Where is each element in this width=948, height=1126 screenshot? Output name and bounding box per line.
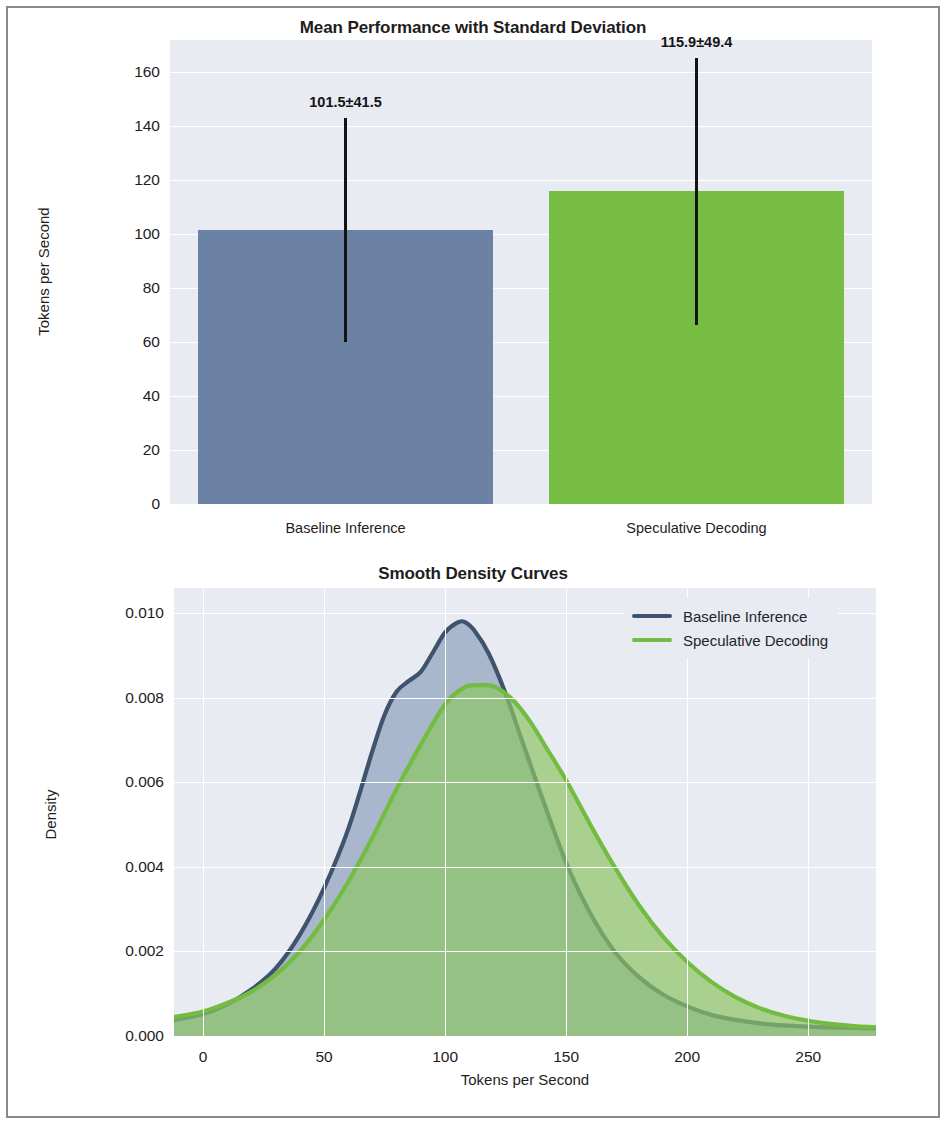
bar-chart-y-tick-label: 100	[68, 225, 160, 243]
density-area-speculative-decoding	[174, 685, 876, 1036]
legend-color-swatch	[632, 638, 672, 642]
density-chart-gridline	[203, 588, 204, 1036]
bar-chart-gridline	[170, 180, 872, 181]
bar-chart-gridline	[170, 126, 872, 127]
density-chart-y-tick-label: 0.000	[46, 1027, 164, 1045]
legend-item-label: Speculative Decoding	[683, 632, 828, 649]
density-chart-y-tick-label: 0.004	[46, 858, 164, 876]
density-chart-gridline	[445, 588, 446, 1036]
density-chart-x-tick-label: 250	[795, 1048, 821, 1066]
density-chart-x-tick-label: 200	[674, 1048, 700, 1066]
density-chart-x-axis-label: Tokens per Second	[174, 1071, 876, 1088]
bar-chart-gridline	[170, 72, 872, 73]
density-chart-gridline	[174, 782, 876, 783]
density-chart-x-tick-label: 0	[199, 1048, 208, 1066]
bar-chart-y-tick-label: 0	[68, 495, 160, 513]
bar-chart-y-tick-label: 120	[68, 171, 160, 189]
density-chart-x-tick-label: 100	[432, 1048, 458, 1066]
error-bar	[695, 58, 698, 325]
bar-chart-panel: Mean Performance with Standard Deviation…	[8, 8, 938, 548]
density-chart-y-tick-label: 0.006	[46, 773, 164, 791]
bar-chart-y-tick-label: 20	[68, 441, 160, 459]
bar-chart-y-tick-label: 80	[68, 279, 160, 297]
density-chart-legend: Baseline InferenceSpeculative Decoding	[624, 598, 838, 658]
bar-value-label: 101.5±41.5	[309, 94, 381, 110]
density-chart-y-tick-label: 0.008	[46, 689, 164, 707]
density-chart-gridline	[174, 867, 876, 868]
density-chart-gridline	[566, 588, 567, 1036]
density-chart-panel: Smooth Density Curves Density Tokens per…	[8, 556, 938, 1116]
error-bar	[344, 118, 347, 342]
legend-color-swatch	[632, 614, 672, 618]
legend-item-speculative-decoding[interactable]: Speculative Decoding	[632, 628, 828, 652]
density-chart-gridline	[174, 951, 876, 952]
density-chart-y-tick-label: 0.002	[46, 942, 164, 960]
bar-chart-y-tick-label: 40	[68, 387, 160, 405]
bar-category-label: Baseline Inference	[285, 520, 405, 536]
legend-item-label: Baseline Inference	[683, 608, 807, 625]
density-chart-gridline	[174, 698, 876, 699]
bar-chart-y-tick-label: 140	[68, 117, 160, 135]
bar-category-label: Speculative Decoding	[626, 520, 766, 536]
density-chart-y-tick-label: 0.010	[46, 604, 164, 622]
bar-chart-y-axis-label: Tokens per Second	[35, 192, 52, 352]
figure-frame: Mean Performance with Standard Deviation…	[6, 6, 940, 1118]
legend-item-baseline-inference[interactable]: Baseline Inference	[632, 604, 828, 628]
density-chart-x-tick-label: 150	[553, 1048, 579, 1066]
bar-chart-y-tick-label: 60	[68, 333, 160, 351]
density-chart-x-tick-label: 50	[315, 1048, 332, 1066]
density-chart-gridline	[324, 588, 325, 1036]
density-chart-title: Smooth Density Curves	[8, 564, 938, 584]
bar-chart-plot-area	[170, 40, 872, 504]
bar-chart-title: Mean Performance with Standard Deviation	[8, 18, 938, 38]
bar-chart-y-tick-label: 160	[68, 63, 160, 81]
bar-value-label: 115.9±49.4	[661, 34, 733, 50]
